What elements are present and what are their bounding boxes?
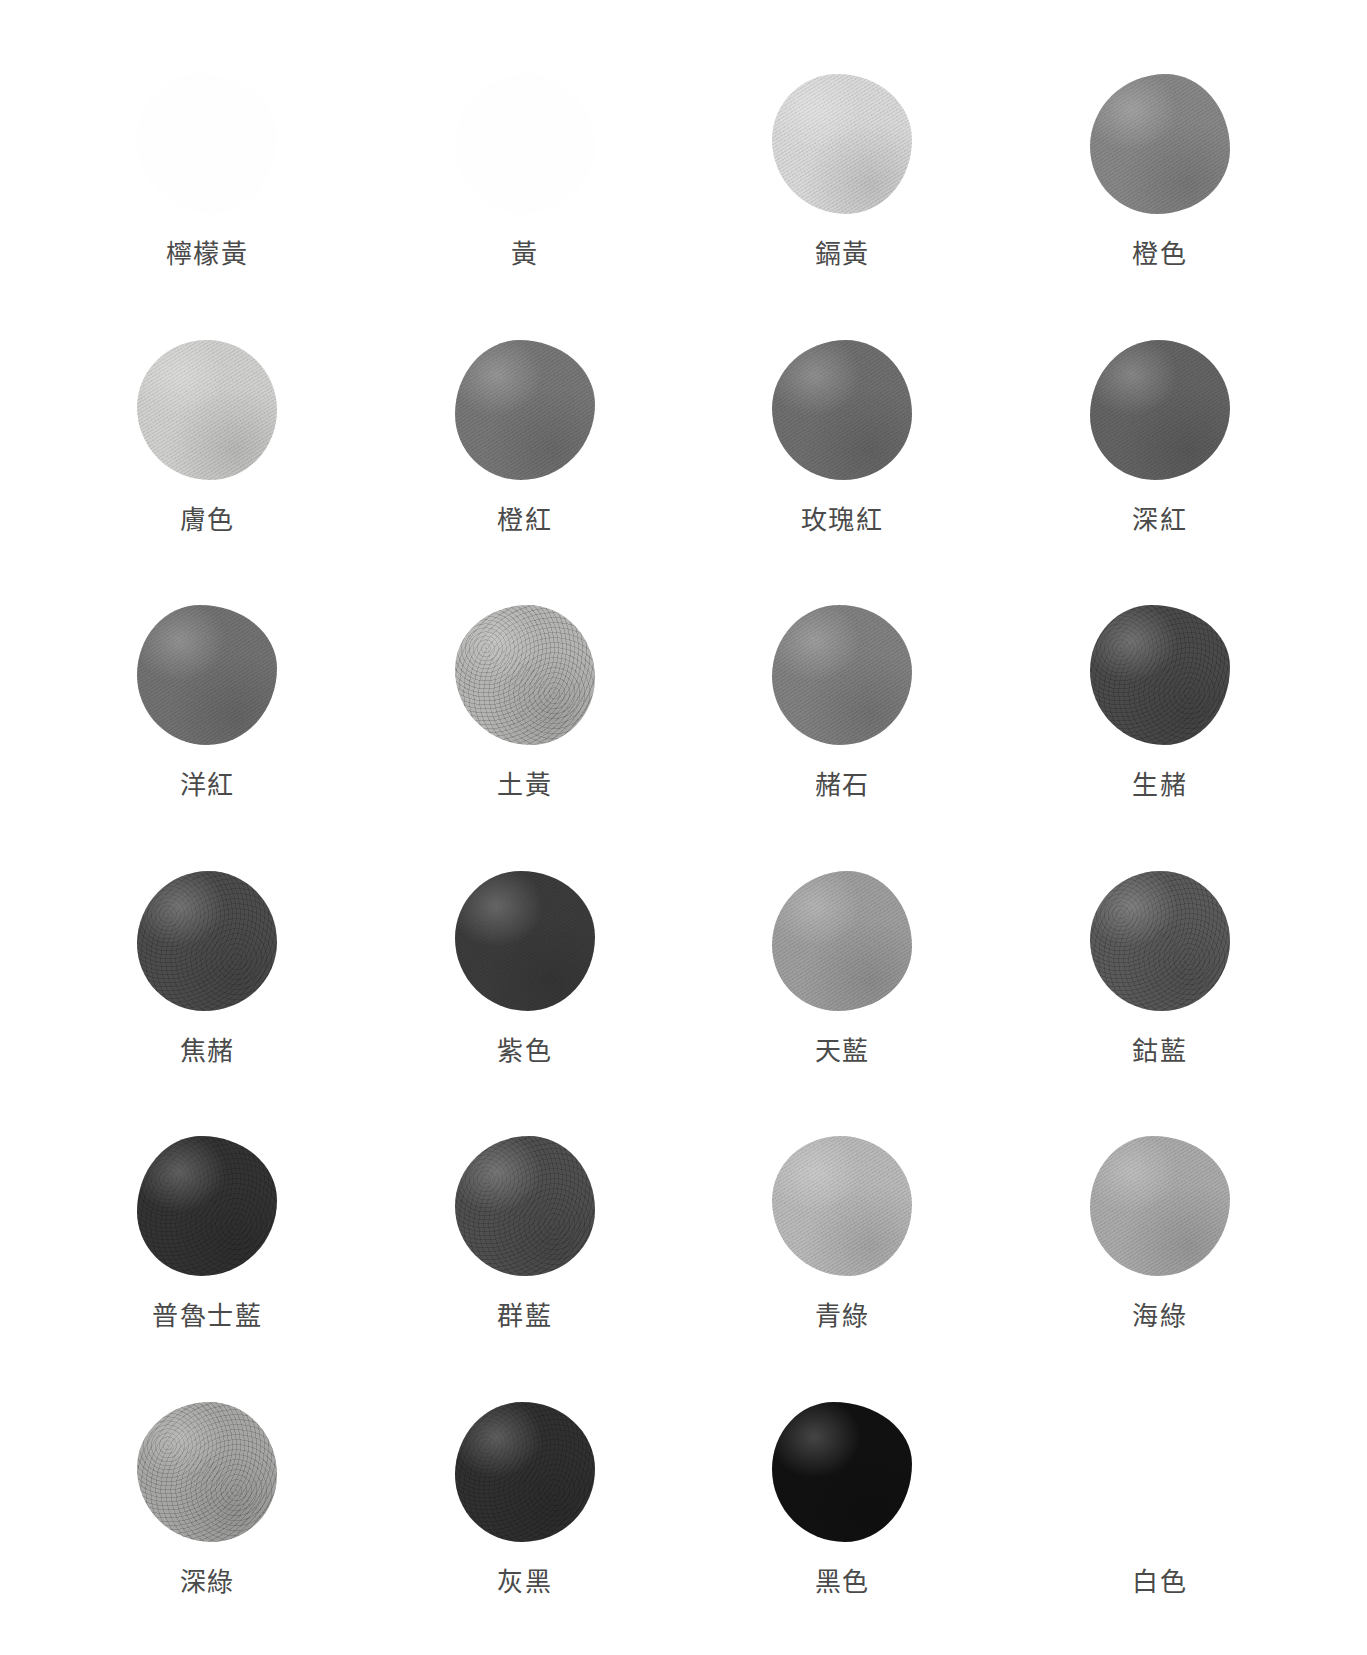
swatch-wrap: [49, 593, 367, 745]
swatch-wrap: [49, 328, 367, 480]
swatch-label: 膚色: [180, 506, 235, 535]
swatch-cell: 洋紅: [49, 593, 367, 859]
swatch-wrap: [49, 859, 367, 1011]
swatch-wrap: [1001, 1124, 1319, 1276]
swatch-label: 橙色: [1132, 240, 1187, 269]
swatch-cell: 鈷藍: [1001, 859, 1319, 1125]
swatch-cell: 膚色: [49, 328, 367, 594]
color-swatch: [772, 605, 912, 745]
color-swatch: [137, 1136, 277, 1276]
swatch-label: 土黃: [497, 771, 552, 800]
swatch-wrap: [49, 1124, 367, 1276]
swatch-cell: 橙色: [1001, 62, 1319, 328]
swatch-cell: 群藍: [366, 1124, 684, 1390]
swatch-cell: 玫瑰紅: [684, 328, 1002, 594]
swatch-label: 生赭: [1132, 771, 1187, 800]
swatch-label: 檸檬黃: [166, 240, 249, 269]
swatch-wrap: [366, 328, 684, 480]
swatch-label: 海綠: [1132, 1302, 1187, 1331]
swatch-label: 深綠: [180, 1568, 235, 1597]
swatch-wrap: [684, 859, 1002, 1011]
swatch-cell: 海綠: [1001, 1124, 1319, 1390]
swatch-cell: 青綠: [684, 1124, 1002, 1390]
swatch-label: 普魯士藍: [152, 1302, 262, 1331]
swatch-cell: 普魯士藍: [49, 1124, 367, 1390]
swatch-label: 橙紅: [497, 506, 552, 535]
color-swatch: [137, 1402, 277, 1542]
color-swatch: [772, 871, 912, 1011]
swatch-wrap: [1001, 328, 1319, 480]
swatch-cell: 黃: [366, 62, 684, 328]
pigment-swatch-chart: 檸檬黃黃鎘黃橙色膚色橙紅玫瑰紅深紅洋紅土黃赭石生赭焦赭紫色天藍鈷藍普魯士藍群藍青…: [0, 0, 1367, 1655]
swatch-wrap: [684, 328, 1002, 480]
swatch-label: 紫色: [497, 1037, 552, 1066]
color-swatch: [137, 605, 277, 745]
swatch-label: 玫瑰紅: [801, 506, 884, 535]
swatch-label: 白色: [1132, 1568, 1187, 1597]
swatch-label: 群藍: [497, 1302, 552, 1331]
color-swatch: [772, 1136, 912, 1276]
swatch-label: 灰黑: [497, 1568, 552, 1597]
color-swatch: [137, 74, 277, 214]
swatch-wrap: [366, 1390, 684, 1542]
swatch-wrap: [1001, 859, 1319, 1011]
color-swatch: [455, 871, 595, 1011]
swatch-wrap: [684, 62, 1002, 214]
color-swatch: [772, 1402, 912, 1542]
swatch-cell: 白色: [1001, 1390, 1319, 1655]
swatch-label: 青綠: [815, 1302, 870, 1331]
swatch-label: 黑色: [815, 1568, 870, 1597]
swatch-cell: 黑色: [684, 1390, 1002, 1655]
swatch-cell: 焦赭: [49, 859, 367, 1125]
swatch-wrap: [366, 859, 684, 1011]
color-swatch: [1090, 74, 1230, 214]
color-swatch: [137, 340, 277, 480]
color-swatch: [1090, 605, 1230, 745]
color-swatch: [1090, 1136, 1230, 1276]
swatch-cell: 生赭: [1001, 593, 1319, 859]
swatch-cell: 深紅: [1001, 328, 1319, 594]
swatch-cell: 灰黑: [366, 1390, 684, 1655]
color-swatch: [455, 74, 595, 214]
color-swatch: [455, 1136, 595, 1276]
swatch-wrap: [684, 593, 1002, 745]
swatch-wrap: [684, 1390, 1002, 1542]
swatch-cell: 鎘黃: [684, 62, 1002, 328]
color-swatch: [455, 1402, 595, 1542]
swatch-label: 天藍: [815, 1037, 870, 1066]
color-swatch: [772, 74, 912, 214]
swatch-cell: 橙紅: [366, 328, 684, 594]
swatch-cell: 紫色: [366, 859, 684, 1125]
swatch-wrap: [684, 1124, 1002, 1276]
swatch-wrap: [1001, 1390, 1319, 1542]
swatch-label: 赭石: [815, 771, 870, 800]
swatch-grid: 檸檬黃黃鎘黃橙色膚色橙紅玫瑰紅深紅洋紅土黃赭石生赭焦赭紫色天藍鈷藍普魯士藍群藍青…: [49, 0, 1319, 1655]
swatch-label: 焦赭: [180, 1037, 235, 1066]
color-swatch: [1090, 340, 1230, 480]
swatch-cell: 赭石: [684, 593, 1002, 859]
swatch-label: 洋紅: [180, 771, 235, 800]
swatch-wrap: [366, 62, 684, 214]
color-swatch: [137, 871, 277, 1011]
swatch-wrap: [366, 593, 684, 745]
swatch-cell: 深綠: [49, 1390, 367, 1655]
swatch-label: 黃: [511, 240, 539, 269]
color-swatch: [772, 340, 912, 480]
swatch-wrap: [366, 1124, 684, 1276]
color-swatch: [1090, 871, 1230, 1011]
swatch-label: 鎘黃: [815, 240, 870, 269]
swatch-label: 深紅: [1132, 506, 1187, 535]
swatch-wrap: [1001, 62, 1319, 214]
swatch-wrap: [1001, 593, 1319, 745]
color-swatch: [455, 605, 595, 745]
swatch-cell: 檸檬黃: [49, 62, 367, 328]
swatch-label: 鈷藍: [1132, 1037, 1187, 1066]
swatch-cell: 天藍: [684, 859, 1002, 1125]
color-swatch: [1090, 1402, 1230, 1542]
swatch-wrap: [49, 1390, 367, 1542]
swatch-wrap: [49, 62, 367, 214]
swatch-cell: 土黃: [366, 593, 684, 859]
color-swatch: [455, 340, 595, 480]
